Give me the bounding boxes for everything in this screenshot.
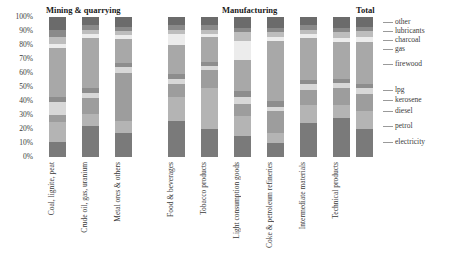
bar-segment-firewood	[234, 60, 251, 91]
bar-segment-electricity	[333, 118, 350, 157]
bar-segment-electricity	[234, 136, 251, 157]
bar-segment-other	[300, 17, 317, 25]
bar-segment-petrol	[201, 88, 218, 129]
legend-label-charcoal[interactable]: charcoal	[395, 36, 420, 44]
bar-segment-petrol	[168, 97, 185, 121]
bar-segment-other	[201, 17, 218, 25]
bar-segment-firewood	[201, 37, 218, 62]
bar-segment-petrol	[82, 114, 99, 127]
bar-intermediate-materials[interactable]	[300, 17, 317, 157]
bar-segment-diesel	[82, 98, 99, 113]
y-axis-tick-label: 0%	[23, 153, 33, 161]
bar-coke-petroleum-refineries[interactable]	[267, 17, 284, 157]
y-axis-tick-label: 30%	[19, 111, 33, 119]
bar-segment-petrol	[356, 111, 373, 129]
bar-segment-diesel	[49, 115, 66, 122]
category-label-coke-petroleum-refineries: Coke & petroleum refineries	[266, 162, 284, 248]
bar-light-consumption-goods[interactable]	[234, 17, 251, 157]
bar-segment-electricity	[115, 133, 132, 157]
bar-segment-charcoal	[49, 37, 66, 44]
y-axis-tick-label: 70%	[19, 55, 33, 63]
bar-segment-other	[267, 17, 284, 28]
bar-segment-diesel	[168, 84, 185, 97]
bar-segment-electricity	[300, 123, 317, 157]
y-axis-tick-label: 40%	[19, 97, 33, 105]
bar-segment-firewood	[333, 42, 350, 78]
legend-label-kerosene[interactable]: kerosene	[395, 96, 422, 104]
legend-label-lubricants[interactable]: lubricants	[395, 27, 425, 35]
group-header-total: Total	[356, 5, 375, 15]
category-label-metal-ores-others: Metal ores & others	[114, 162, 123, 222]
category-label-intermediate-materials: Intermediate materials	[299, 162, 308, 229]
bar-segment-petrol	[333, 105, 350, 118]
legend-label-other[interactable]: other	[395, 18, 410, 26]
legend-label-lpg[interactable]: lpg	[395, 86, 405, 94]
bar-segment-other	[234, 17, 251, 28]
y-axis-tick-label: 80%	[19, 41, 33, 49]
y-axis-tick-label: 90%	[19, 27, 33, 35]
bar-segment-petrol	[49, 122, 66, 142]
bar-segment-lubricants	[49, 30, 66, 37]
bar-segment-electricity	[82, 126, 99, 157]
bar-technical-products[interactable]	[333, 17, 350, 157]
bar-segment-diesel	[201, 70, 218, 88]
bar-segment-firewood	[267, 41, 284, 101]
bar-segment-diesel	[115, 73, 132, 121]
bar-segment-petrol	[234, 116, 251, 136]
bar-food-beverages[interactable]	[168, 17, 185, 157]
group-header-manufacturing: Manufacturing	[222, 5, 277, 15]
bar-segment-diesel	[356, 94, 373, 111]
bar-segment-firewood	[82, 38, 99, 88]
legend-label-gas[interactable]: gas	[395, 45, 405, 53]
legend-label-petrol[interactable]: petrol	[395, 122, 413, 130]
bar-segment-petrol	[267, 133, 284, 143]
bar-segment-kerosene	[234, 97, 251, 104]
bar-segment-firewood	[49, 48, 66, 97]
category-label-food-beverages: Food & beverages	[167, 162, 176, 217]
group-header-mining-quarrying: Mining & quarrying	[46, 5, 121, 15]
bar-segment-firewood	[356, 42, 373, 84]
y-axis-tick-label: 60%	[19, 69, 33, 77]
bar-coal-lignite-peat[interactable]	[49, 17, 66, 157]
bar-segment-other	[333, 17, 350, 28]
legend-label-electricity[interactable]: electricity	[395, 138, 425, 146]
legend-leader-line	[383, 90, 393, 91]
bar-segment-electricity	[356, 129, 373, 157]
legend-leader-line	[383, 126, 393, 127]
bar-metal-ores-others[interactable]	[115, 17, 132, 157]
bar-segment-electricity	[267, 143, 284, 157]
y-axis: 100%90%80%70%60%50%40%30%20%10%0%	[0, 0, 38, 262]
category-label-tobacco-products: Tobacco products	[200, 162, 209, 215]
legend-leader-line	[383, 22, 393, 23]
category-label-light-consumption-goods: Light consumption goods	[233, 162, 251, 239]
bar-segment-firewood	[300, 38, 317, 80]
legend-label-firewood[interactable]: firewood	[395, 60, 422, 68]
bar-segment-gas	[168, 34, 185, 45]
bar-crude-oil-gas-uranium[interactable]	[82, 17, 99, 157]
bar-segment-diesel	[234, 104, 251, 117]
bar-total[interactable]	[356, 17, 373, 157]
bar-segment-electricity	[49, 142, 66, 157]
legend-leader-line	[383, 100, 393, 101]
legend-leader-line	[383, 111, 393, 112]
bar-segment-other	[115, 17, 132, 27]
y-axis-tick-label: 50%	[19, 83, 33, 91]
y-axis-tick-label: 10%	[19, 139, 33, 147]
bar-segment-other	[356, 17, 373, 27]
bar-segment-diesel	[300, 90, 317, 105]
bar-segment-petrol	[300, 105, 317, 123]
bar-segment-diesel	[267, 111, 284, 133]
y-axis-tick-label: 100%	[16, 13, 34, 21]
bar-segment-firewood	[168, 45, 185, 74]
legend-label-diesel[interactable]: diesel	[395, 107, 413, 115]
category-label-technical-products: Technical products	[332, 162, 341, 219]
bar-tobacco-products[interactable]	[201, 17, 218, 157]
legend-leader-line	[383, 64, 393, 65]
legend: otherlubricantscharcoalgasfirewoodlpgker…	[381, 14, 456, 164]
bar-segment-other	[168, 17, 185, 25]
bar-segment-other	[82, 17, 99, 25]
bar-segment-petrol	[115, 121, 132, 134]
bar-segment-kerosene	[49, 102, 66, 115]
bar-segment-gas	[234, 41, 251, 61]
bar-segment-electricity	[201, 129, 218, 157]
